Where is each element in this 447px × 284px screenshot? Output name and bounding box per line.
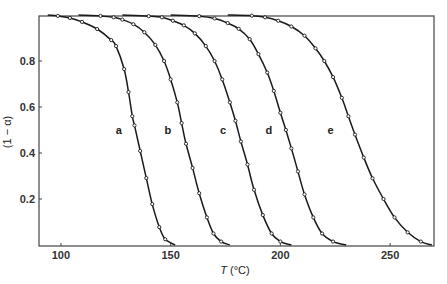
curve-label-d: d: [265, 124, 272, 136]
marker-e: [290, 25, 293, 28]
marker-b: [154, 43, 157, 46]
marker-e: [277, 19, 280, 22]
marker-d: [266, 71, 269, 74]
marker-c: [279, 240, 282, 243]
marker-c: [234, 119, 237, 122]
marker-c: [221, 78, 224, 81]
marker-d: [198, 15, 201, 18]
marker-b: [191, 166, 194, 169]
marker-c: [182, 24, 185, 27]
plot-border: [39, 16, 434, 246]
chart: 100150200250 0.20.40.60.8 abcde T (°C) (…: [0, 0, 447, 284]
marker-c: [239, 140, 242, 143]
marker-a: [68, 16, 71, 19]
marker-b: [143, 31, 146, 34]
marker-a: [145, 176, 148, 179]
curve-labels: abcde: [116, 124, 334, 136]
x-tick-label: 100: [52, 249, 70, 261]
marker-d: [284, 128, 287, 131]
marker-a: [114, 44, 117, 47]
x-tick-label: 200: [271, 249, 289, 261]
marker-d: [237, 27, 240, 30]
marker-b: [198, 192, 201, 195]
marker-d: [312, 216, 315, 219]
marker-a: [127, 90, 130, 93]
marker-a: [131, 115, 134, 118]
marker-e: [393, 216, 396, 219]
y-tick-label: 0.4: [20, 147, 36, 159]
marker-b: [180, 122, 183, 125]
marker-e: [382, 197, 385, 200]
curve-label-b: b: [165, 124, 172, 136]
marker-c: [171, 19, 174, 22]
marker-e: [347, 115, 350, 118]
x-axis-title: T (°C): [220, 264, 249, 276]
curves: [48, 15, 432, 245]
curve-a: [48, 15, 175, 245]
marker-d: [279, 111, 282, 114]
marker-e: [323, 59, 326, 62]
marker-b: [112, 16, 115, 19]
marker-c: [204, 44, 207, 47]
marker-d: [272, 89, 275, 92]
marker-c: [270, 232, 273, 235]
marker-a: [139, 149, 142, 152]
marker-e: [303, 34, 306, 37]
marker-d: [248, 38, 251, 41]
marker-e: [314, 47, 317, 50]
curve-d: [171, 15, 347, 245]
marker-e: [263, 16, 266, 19]
marker-a: [164, 238, 167, 241]
marker-a: [56, 14, 59, 17]
marker-e: [250, 14, 253, 17]
marker-c: [246, 163, 249, 166]
marker-d: [303, 193, 306, 196]
marker-e: [371, 177, 374, 180]
y-tick-label: 0.2: [20, 193, 35, 205]
marker-e: [419, 240, 422, 243]
marker-b: [205, 216, 208, 219]
marker-d: [290, 147, 293, 150]
marker-b: [121, 18, 124, 21]
marker-c: [147, 15, 150, 18]
marker-c: [193, 32, 196, 35]
marker-c: [228, 101, 231, 104]
marker-a: [158, 225, 161, 228]
x-tick-label: 150: [161, 249, 179, 261]
marker-d: [257, 53, 260, 56]
marker-c: [261, 214, 264, 217]
marker-a: [123, 67, 126, 70]
curve-label-a: a: [116, 124, 123, 136]
marker-d: [296, 170, 299, 173]
y-tick-label: 0.8: [20, 55, 35, 67]
marker-a: [133, 124, 136, 127]
marker-e: [406, 231, 409, 234]
marker-a: [151, 202, 154, 205]
marker-b: [220, 240, 223, 243]
marker-b: [184, 142, 187, 145]
marker-b: [162, 59, 165, 62]
x-axis-title-unit: (°C): [227, 264, 250, 276]
marker-a: [96, 27, 99, 30]
marker-b: [132, 23, 135, 26]
marker-d: [213, 17, 216, 20]
marker-c: [252, 188, 255, 191]
marker-e: [362, 156, 365, 159]
marker-d: [320, 232, 323, 235]
marker-d: [331, 240, 334, 243]
marker-a: [80, 20, 83, 23]
y-axis-title: (1 − α): [1, 116, 13, 148]
marker-e: [353, 133, 356, 136]
marker-b: [212, 232, 215, 235]
marker-e: [340, 96, 343, 99]
marker-c: [213, 59, 216, 62]
marker-d: [226, 21, 229, 24]
curve-label-e: e: [328, 124, 334, 136]
marker-b: [176, 101, 179, 104]
marker-a: [110, 38, 113, 41]
data-markers: [56, 14, 422, 243]
marker-b: [169, 78, 172, 81]
marker-c: [160, 16, 163, 19]
x-tick-label: 250: [381, 249, 399, 261]
y-tick-label: 0.6: [20, 101, 35, 113]
